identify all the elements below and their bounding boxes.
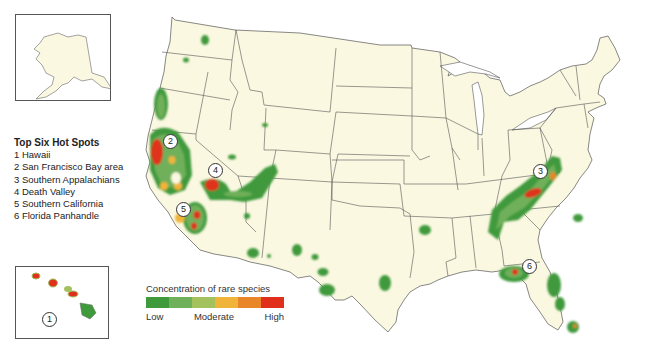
scale-swatch [238,297,261,308]
alaska-shape [16,15,110,100]
legend-title: Concentration of rare species [146,283,294,294]
scale-label-moderate: Moderate [194,311,234,322]
scale-swatch [146,297,169,308]
scale-swatch [192,297,215,308]
hotspot-list: Top Six Hot Spots 1 Hawaii 2 San Francis… [14,137,123,222]
hotspot-item: 3 Southern Appalachians [14,174,123,186]
hotspot-item: 6 Florida Panhandle [14,210,123,222]
scale-label-low: Low [146,311,163,322]
hawaii-shape [16,267,108,338]
scale-swatch [215,297,238,308]
hotspot-marker-2: 2 [163,134,178,149]
hotspot-marker-1: 1 [42,312,57,327]
scale-labels: Low Moderate High [146,311,284,322]
hotspot-list-title: Top Six Hot Spots [14,137,123,149]
hotspot-marker-5: 5 [176,202,191,217]
concentration-legend: Concentration of rare species Low Modera… [146,283,294,322]
color-scale [146,297,284,308]
hotspot-item: 2 San Francisco Bay area [14,161,123,173]
scale-label-high: High [264,311,284,322]
alaska-inset [15,14,111,101]
hotspot-item: 5 Southern California [14,198,123,210]
scale-swatch [261,297,284,308]
hotspot-item: 4 Death Valley [14,186,123,198]
hotspot-item: 1 Hawaii [14,149,123,161]
hotspot-marker-4: 4 [208,163,223,178]
scale-swatch [169,297,192,308]
hawaii-inset [15,266,109,339]
hotspot-marker-3: 3 [533,164,548,179]
hotspot-marker-6: 6 [522,259,537,274]
